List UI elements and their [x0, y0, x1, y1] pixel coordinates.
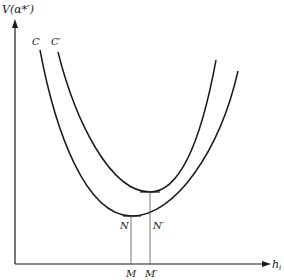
x-axis-label: hi — [272, 258, 281, 272]
x-axis-label-subscript: i — [279, 264, 281, 272]
m-prime-label: M′ — [144, 268, 158, 279]
curve-c — [40, 50, 238, 216]
y-axis-arrow-icon — [12, 19, 18, 28]
point-n-label: N — [119, 220, 130, 231]
curve-c-prime-label: C′ — [51, 36, 62, 47]
x-axis-label-main: h — [272, 258, 279, 271]
point-n-prime-label: N′ — [152, 220, 165, 231]
diagram: V(α*′) hi C C′ N N′ M M′ — [0, 0, 284, 280]
x-axis-arrow-icon — [262, 261, 271, 267]
m-label: M — [125, 268, 137, 279]
curve-c-label: C — [32, 36, 40, 47]
y-axis-label: V(α*′) — [2, 3, 34, 16]
curve-c-prime — [58, 52, 216, 192]
